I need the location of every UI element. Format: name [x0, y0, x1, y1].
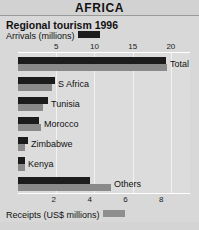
- region-header-band: AFRICA: [0, 0, 199, 16]
- legend-receipts-label: Receipts (US$ millions): [6, 210, 100, 220]
- top-tick-label: 20: [166, 42, 175, 52]
- bottom-axis-line: [18, 193, 190, 194]
- bar-group: Zimbabwe: [18, 137, 190, 151]
- bottom-tick-label: 2: [52, 195, 56, 205]
- bar-category-label: S Africa: [58, 79, 89, 90]
- receipts-swatch: [103, 210, 125, 217]
- arrivals-swatch: [78, 31, 100, 38]
- plot-area: TotalS AfricaTunisiaMoroccoZimbabweKenya…: [18, 53, 190, 193]
- top-tick-label: 15: [128, 42, 137, 52]
- bar-group: Others: [18, 177, 190, 191]
- bar-arrivals: [18, 157, 25, 164]
- bottom-tick-label: 8: [159, 195, 163, 205]
- top-tick-label: 10: [90, 42, 99, 52]
- bar-category-label: Kenya: [28, 159, 54, 170]
- bar-category-label: Morocco: [44, 119, 79, 130]
- legend-arrivals-label: Arrivals (millions): [6, 31, 75, 41]
- bottom-axis-ticks: 2468: [0, 195, 199, 206]
- bar-receipts: [18, 144, 25, 151]
- bar-receipts: [18, 124, 41, 131]
- bar-arrivals: [18, 117, 39, 124]
- legend-arrivals: Arrivals (millions): [6, 31, 100, 42]
- bar-group: S Africa: [18, 77, 190, 91]
- top-tick-label: 5: [54, 42, 58, 52]
- bar-receipts: [18, 84, 52, 91]
- bar-receipts: [18, 104, 43, 111]
- chart-title: Regional tourism 1996: [6, 19, 118, 31]
- bar-receipts: [18, 184, 111, 191]
- bottom-tick-label: 4: [87, 195, 91, 205]
- bar-group: Tunisia: [18, 97, 190, 111]
- bar-receipts: [18, 64, 167, 71]
- page-title: AFRICA: [0, 1, 199, 15]
- bar-arrivals: [18, 77, 55, 84]
- legend-receipts: Receipts (US$ millions): [6, 210, 125, 221]
- bar-group: Morocco: [18, 117, 190, 131]
- bar-category-label: Zimbabwe: [31, 139, 73, 150]
- bars-layer: TotalS AfricaTunisiaMoroccoZimbabweKenya…: [18, 53, 190, 193]
- bar-category-label: Tunisia: [51, 99, 80, 110]
- bar-group: Kenya: [18, 157, 190, 171]
- bar-arrivals: [18, 57, 166, 64]
- footer-strip: [0, 222, 199, 230]
- top-axis-ticks: 5101520: [0, 42, 199, 53]
- bottom-tick-label: 6: [123, 195, 127, 205]
- bar-arrivals: [18, 137, 28, 144]
- chart-panel: AFRICA Regional tourism 1996 Arrivals (m…: [0, 0, 199, 230]
- bar-arrivals: [18, 177, 90, 184]
- bar-receipts: [18, 164, 25, 171]
- bar-category-label: Total: [170, 59, 189, 70]
- bar-category-label: Others: [114, 179, 141, 190]
- bar-group: Total: [18, 57, 190, 71]
- bar-arrivals: [18, 97, 48, 104]
